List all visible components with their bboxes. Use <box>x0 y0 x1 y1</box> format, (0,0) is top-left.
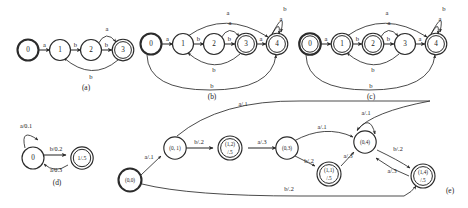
edge-e-04-14 <box>377 150 410 168</box>
node-a-3-label: 3 <box>121 46 125 54</box>
node-a-1-label: 1 <box>58 46 62 54</box>
edge-label-c-10: b <box>369 82 373 89</box>
node-e-03-label: (0,3) <box>282 145 292 152</box>
node-e-00-label: (0,0) <box>125 177 135 184</box>
node-b-4-label: 4 <box>275 40 279 48</box>
node-d-1-label: 1/.5 <box>78 155 87 161</box>
edge-e-03-04 <box>294 131 353 141</box>
edge-label-b-7: b <box>283 5 287 12</box>
edge-label-d-self: a/0.1 <box>20 122 32 129</box>
edge-label-e-10: a/.3 <box>387 167 396 174</box>
node-a-0-label: 0 <box>26 46 30 54</box>
edge-label-a-3: b <box>105 41 109 48</box>
edge-label-b-8: a <box>280 15 283 22</box>
node-e-11-label-bottom: /.5 <box>326 175 332 181</box>
edge-label-a-2: b <box>74 41 78 48</box>
node-b-0-label: 0 <box>149 40 153 48</box>
node-e-04-label: (0,4) <box>360 139 370 146</box>
edge-label-e-8: a/.1 <box>361 109 370 116</box>
edge-label-b-10: b <box>210 82 214 89</box>
edge-label-e-2: b/.2 <box>194 138 203 145</box>
edge-label-c-2: b <box>356 35 360 42</box>
caption-a: (a) <box>82 83 91 92</box>
edge-label-e-1: a/.1 <box>144 153 153 160</box>
node-c-1-label: 1 <box>340 40 344 48</box>
node-b-1-label: 1 <box>181 40 185 48</box>
panel-b: 0 1 2 3 4 a b b a a a b a b b (b) <box>141 5 288 101</box>
edge-label-c-9: b <box>371 66 375 73</box>
node-d-0-label: 0 <box>31 154 35 162</box>
edge-label-c-7: b <box>442 5 446 12</box>
edge-label-d-back: a/0.3 <box>50 166 62 173</box>
edge-label-b-1: a <box>166 35 169 42</box>
edge-label-e-11: b/.2 <box>284 185 293 192</box>
node-a-2-label: 2 <box>89 46 93 54</box>
node-e-11-label-top: (1,1) <box>324 167 334 174</box>
node-e-14-label-bottom: /.5 <box>420 177 426 183</box>
node-c-4-label: 4 <box>434 40 438 48</box>
node-c-3-label: 3 <box>403 40 407 48</box>
edge-label-e-6: a/.1 <box>317 123 326 130</box>
edge-label-b-5: a <box>229 19 232 26</box>
edge-label-b-6: a <box>227 9 230 16</box>
edge-label-e-3: a/.3 <box>257 138 266 145</box>
automata-figure: 0 1 2 3 a b b a b (a) 0 1 2 <box>0 0 468 208</box>
edge-label-c-8: a <box>439 15 442 22</box>
node-e-14-label-top: (1,4) <box>418 169 428 176</box>
caption-e: (e) <box>446 186 455 195</box>
caption-d: (d) <box>53 178 62 187</box>
node-e-01-label: (0, 1) <box>169 145 181 152</box>
edge-label-c-4: a <box>419 35 422 42</box>
edge-label-b-4: a <box>260 35 263 42</box>
node-b-2-label: 2 <box>212 40 216 48</box>
edge-e-01-04-long <box>177 101 430 136</box>
edge-label-c-1: a <box>325 35 328 42</box>
edge-label-e-5: b/.2 <box>304 157 313 164</box>
edge-label-c-3: b <box>387 35 391 42</box>
edge-label-c-5: a <box>388 19 391 26</box>
node-e-12-label-bottom: /.5 <box>227 149 233 155</box>
edge-label-a-4: a <box>106 25 109 32</box>
edge-label-a-5: b <box>89 73 93 80</box>
edge-label-e-4: a/.1 <box>238 100 247 107</box>
node-e-12-label-top: (1,2) <box>225 141 235 148</box>
edge-label-a-1: a <box>43 41 46 48</box>
panel-c: 0 1 2 3 4 a b b a a a b a b b (c) <box>299 5 447 101</box>
caption-c: (c) <box>367 92 376 101</box>
edge-label-b-3: b <box>228 35 232 42</box>
edge-label-b-2: b <box>197 35 201 42</box>
edge-label-c-6: a <box>386 9 389 16</box>
edge-label-e-7: a/.3 <box>343 152 352 159</box>
edge-d-0-self <box>24 135 38 148</box>
caption-b: (b) <box>208 92 217 101</box>
edge-label-b-9: b <box>212 66 216 73</box>
figure-root: 0 1 2 3 a b b a b (a) 0 1 2 <box>0 0 468 208</box>
panel-d: 0 1/.5 a/0.1 b/0.2 a/0.3 (d) <box>20 122 93 186</box>
edge-label-d-fwd: b/0.2 <box>50 145 63 152</box>
edge-e-00-14-long <box>142 184 416 196</box>
edge-label-e-9: b/.2 <box>393 145 402 152</box>
panel-a: 0 1 2 3 a b b a b (a) <box>18 25 134 92</box>
node-c-0-label: 0 <box>308 40 312 48</box>
panel-e: (0,0) (0, 1) (1,2) /.5 (0,3) (1,1) /.5 (… <box>119 100 455 196</box>
node-c-2-label: 2 <box>371 40 375 48</box>
node-b-3-label: 3 <box>244 40 248 48</box>
